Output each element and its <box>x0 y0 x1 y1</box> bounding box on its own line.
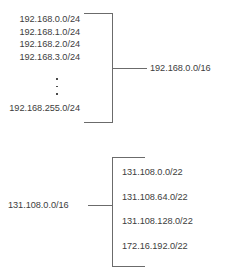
aggregate-connector-line <box>113 68 147 69</box>
cidr-label: 131.108.64.0/22 <box>122 192 234 203</box>
aggregate-summary-label: 192.168.0.0/16 <box>150 63 211 74</box>
cidr-label: 192.168.2.0/24 <box>0 39 80 50</box>
cidr-label: 192.168.3.0/24 <box>0 52 80 63</box>
vertical-ellipsis-icon <box>0 78 80 101</box>
ellipsis-dot <box>56 86 58 88</box>
ellipsis-dot <box>56 93 58 95</box>
decompose-member-list: 131.108.0.0/22 131.108.64.0/22 131.108.1… <box>122 167 234 265</box>
cidr-label: 131.108.0.0/22 <box>122 167 234 178</box>
aggregate-bracket <box>84 13 113 123</box>
cidr-label: 192.168.1.0/24 <box>0 27 80 38</box>
aggregate-member-list: 192.168.0.0/24 192.168.1.0/24 192.168.2.… <box>0 14 80 64</box>
decompose-summary-label: 131.108.0.0/16 <box>8 200 69 211</box>
cidr-label: 172.16.192.0/22 <box>122 241 234 252</box>
decompose-connector-line <box>88 205 113 206</box>
ellipsis-dot <box>56 78 58 80</box>
cidr-label: 131.108.128.0/22 <box>122 216 234 227</box>
cidr-label-last: 192.168.255.0/24 <box>0 103 80 114</box>
cidr-aggregation-diagram: 192.168.0.0/24 192.168.1.0/24 192.168.2.… <box>0 0 234 276</box>
cidr-label: 192.168.0.0/24 <box>0 14 80 25</box>
